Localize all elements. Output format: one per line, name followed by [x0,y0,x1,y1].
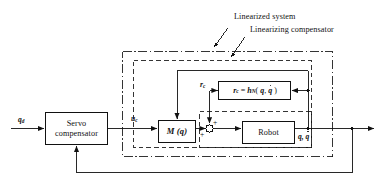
nonlinear-compensation-equation: rc = hN( q, q ) [219,81,291,100]
servo-compensator-label: Servo compensator [45,112,108,145]
block-diagram-figure: Linearized system Linearizing compensato… [0,0,385,187]
robot-label: Robot [242,121,295,144]
inertia-matrix-label: M ( q ) [158,120,196,143]
summing-sign-top: + [213,118,217,127]
signal-control-input: uc [131,114,138,123]
signal-plant-output: q, q [298,132,309,141]
summing-sign-left: + [200,130,204,139]
annotation-linearizing-compensator: Linearizing compensator [250,25,334,34]
signal-reference-input: qd [18,115,24,124]
signal-compensation: rc [200,80,205,89]
node-plant-output [306,127,309,130]
node-hn-input [306,89,309,92]
node-global-feedback [350,127,353,130]
annotation-linearized-system: Linearized system [234,12,296,21]
